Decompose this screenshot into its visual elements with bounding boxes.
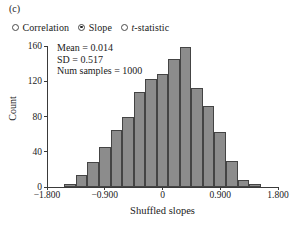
histogram-bar (157, 74, 169, 187)
y-tick-mark (44, 151, 47, 152)
histogram-bar (111, 130, 123, 187)
y-axis-title: Count (7, 79, 18, 139)
x-tick-label: −0.900 (82, 190, 128, 201)
y-tick-mark (44, 81, 47, 82)
histogram-bar (64, 184, 76, 187)
x-tick-label: 0.900 (197, 190, 243, 201)
histogram-bar (122, 117, 134, 188)
y-tick-mark (44, 46, 47, 47)
histogram-bar (168, 59, 180, 187)
y-tick-label: 160 (14, 41, 42, 51)
stats-num-samples: Num samples = 1000 (57, 65, 142, 77)
y-tick-mark (44, 116, 47, 117)
histogram-plot: 04080120160 −1.800−0.90000.9001.800 Coun… (0, 0, 290, 229)
histogram-bar (226, 161, 238, 187)
histogram-bar (249, 184, 261, 187)
histogram-bar (238, 180, 250, 187)
stats-mean: Mean = 0.014 (57, 42, 142, 54)
figure-panel-c: (c) CorrelationSlopet-statistic 04080120… (0, 0, 290, 229)
x-tick-label: 0 (140, 190, 186, 201)
x-tick-label: 1.800 (255, 190, 290, 201)
stats-sd: SD = 0.517 (57, 54, 142, 66)
histogram-bar (134, 92, 146, 187)
histogram-bar (99, 147, 111, 187)
histogram-bar (76, 175, 88, 187)
y-tick-label: 120 (14, 76, 42, 86)
histogram-bar (145, 79, 157, 187)
y-tick-label: 40 (14, 147, 42, 157)
y-tick-label: 80 (14, 112, 42, 122)
histogram-bar (203, 106, 215, 187)
stats-annotation: Mean = 0.014 SD = 0.517 Num samples = 10… (57, 42, 142, 77)
x-axis-title: Shuffled slopes (47, 205, 278, 217)
histogram-bar (191, 88, 203, 187)
y-axis-line (47, 46, 48, 188)
x-tick-label: −1.800 (24, 190, 70, 201)
histogram-bar (180, 47, 192, 187)
histogram-bar (214, 132, 226, 187)
histogram-bar (87, 162, 99, 187)
